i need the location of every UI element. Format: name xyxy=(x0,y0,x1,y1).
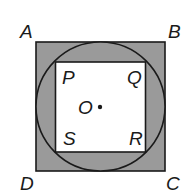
diagram-svg: A B C D P Q R S O xyxy=(0,0,184,191)
label-B: B xyxy=(168,21,181,42)
label-S: S xyxy=(63,128,76,149)
label-C: C xyxy=(166,173,180,191)
center-point-O xyxy=(98,105,102,109)
label-O: O xyxy=(78,97,93,118)
label-D: D xyxy=(20,173,34,191)
label-P: P xyxy=(62,67,75,88)
figure: A B C D P Q R S O xyxy=(0,0,184,191)
label-Q: Q xyxy=(127,67,142,88)
label-R: R xyxy=(129,128,143,149)
label-A: A xyxy=(19,21,33,42)
